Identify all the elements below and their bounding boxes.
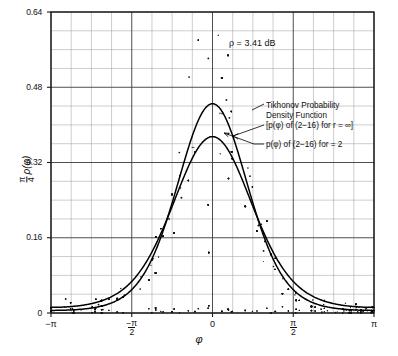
annotation-rho-value: ρ = 3.41 dB [229, 38, 275, 48]
annotation-curve-r2-label: p(φ) of (2−16) for = 2 [266, 140, 342, 150]
annotation-tikhonov-line-1: Tikhonov Probability [266, 101, 353, 111]
x-axis-label: φ [0, 333, 398, 345]
x-tick-label-pi: π [359, 319, 389, 329]
y-tick-label-0: 0 [8, 308, 42, 318]
tikhonov-pdf-chart [0, 0, 398, 356]
annotation-tikhonov-label: Tikhonov Probability Density Function [p… [266, 101, 353, 132]
annotation-tikhonov-line-2: Density Function [266, 111, 353, 121]
y-tick-label-048: 0.48 [8, 82, 42, 92]
x-tick-label-zero: 0 [198, 319, 228, 329]
x-tick-label-neg-pi: −π [36, 319, 66, 329]
y-tick-label-032: 0.32 [8, 157, 42, 167]
y-axis-label: π4 ρ(φ) [10, 135, 44, 205]
y-tick-label-016: 0.16 [8, 232, 42, 242]
figure-background [0, 0, 398, 356]
y-tick-label-064: 0.64 [8, 7, 42, 17]
annotation-tikhonov-line-3: [p(φ) of (2−16) for r = ∞] [266, 121, 353, 131]
y-axis-label-fraction: π4 [18, 176, 35, 184]
